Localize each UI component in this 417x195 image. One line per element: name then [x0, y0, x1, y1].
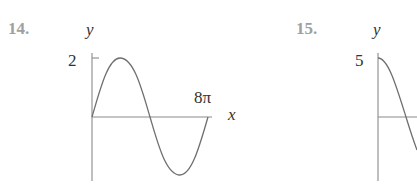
graph-15 [378, 53, 417, 181]
plots-canvas [0, 0, 417, 195]
graph-14 [92, 53, 212, 181]
cosine-curve-15 [378, 58, 417, 150]
